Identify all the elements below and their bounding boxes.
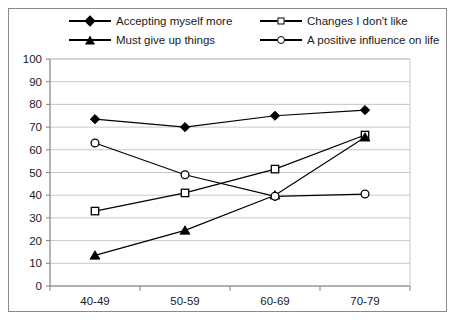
x-tick-label: 50-59 bbox=[145, 295, 225, 307]
y-tick-label: 40 bbox=[16, 189, 42, 201]
data-point-marker bbox=[181, 171, 189, 179]
y-tick-label: 60 bbox=[16, 144, 42, 156]
x-axis-ticks bbox=[50, 286, 410, 291]
series-markers bbox=[90, 105, 370, 259]
data-point-marker bbox=[270, 111, 279, 120]
y-tick-label: 0 bbox=[16, 280, 42, 292]
data-point-marker bbox=[91, 139, 99, 147]
data-point-marker bbox=[360, 105, 369, 114]
data-point-marker bbox=[180, 226, 190, 234]
data-point-marker bbox=[91, 207, 98, 214]
plot-svg bbox=[0, 0, 457, 322]
x-tick-label: 60-69 bbox=[235, 295, 315, 307]
x-tick-label: 70-79 bbox=[325, 295, 405, 307]
y-tick-label: 30 bbox=[16, 212, 42, 224]
series-lines bbox=[95, 110, 365, 255]
plot-area: 0102030405060708090100 40-4950-5960-6970… bbox=[0, 0, 457, 322]
data-point-marker bbox=[271, 165, 278, 172]
y-tick-label: 10 bbox=[16, 257, 42, 269]
y-tick-label: 100 bbox=[16, 53, 42, 65]
y-tick-label: 80 bbox=[16, 98, 42, 110]
data-point-marker bbox=[180, 123, 189, 132]
data-point-marker bbox=[181, 189, 188, 196]
y-tick-label: 90 bbox=[16, 76, 42, 88]
data-point-marker bbox=[271, 192, 279, 200]
gridlines bbox=[50, 59, 410, 286]
x-tick-label: 40-49 bbox=[55, 295, 135, 307]
data-point-marker bbox=[90, 115, 99, 124]
y-tick-label: 20 bbox=[16, 235, 42, 247]
chart-figure: Accepting myself more Changes I don't li… bbox=[0, 0, 457, 322]
y-tick-label: 50 bbox=[16, 167, 42, 179]
data-point-marker bbox=[361, 190, 369, 198]
y-tick-label: 70 bbox=[16, 121, 42, 133]
